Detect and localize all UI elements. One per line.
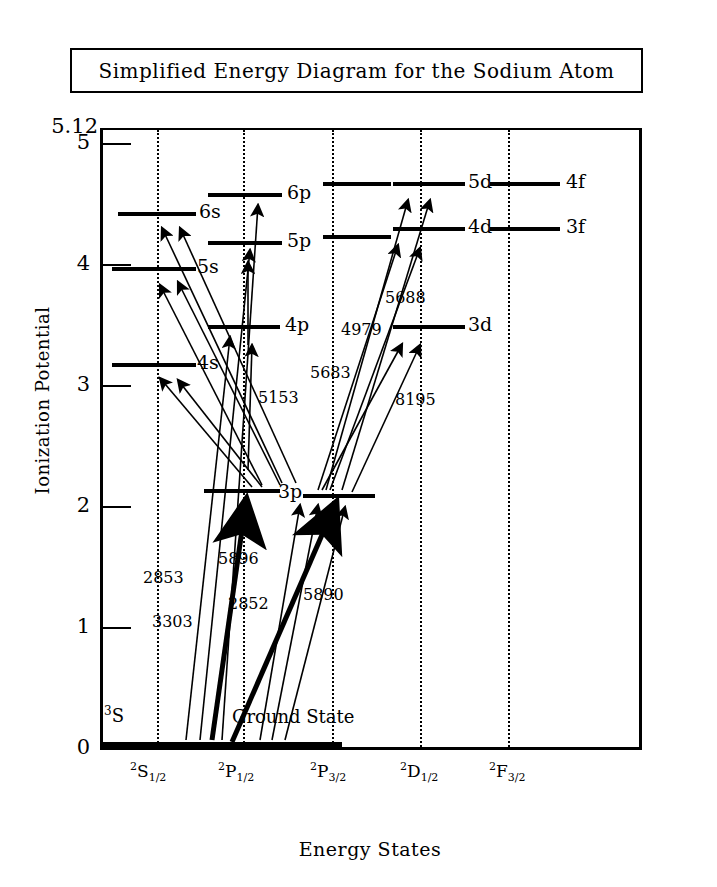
xtick-P12-subscript: 1/2 bbox=[236, 771, 254, 784]
wavelength-label-4979: 4979 bbox=[341, 320, 382, 339]
level-label-4f: 4f bbox=[566, 170, 585, 192]
ytick-label-5: 5 bbox=[20, 130, 90, 154]
xtick-P12-superscript: 2 bbox=[218, 760, 225, 773]
level-line-5s bbox=[112, 267, 196, 271]
ground-term-superscript: 3 bbox=[104, 704, 112, 718]
xtick-F-superscript: 2 bbox=[489, 760, 496, 773]
level-line-4f bbox=[490, 182, 560, 186]
wavelength-label-3303: 3303 bbox=[152, 612, 193, 631]
axis-left bbox=[100, 128, 103, 750]
level-label-4s: 4s bbox=[197, 351, 219, 373]
energy-level-diagram: 5.12 5 4 3 2 1 0 Ionization Potential 6s… bbox=[0, 0, 717, 887]
transition-3p-to-5d bbox=[342, 200, 430, 490]
level-label-3d: 3d bbox=[468, 313, 492, 335]
xtick-label-P32: 2P3/2 bbox=[310, 760, 346, 784]
transition-arrows bbox=[0, 0, 717, 887]
level-line-5p-p32 bbox=[323, 235, 391, 239]
transition-3p-to-4s-b bbox=[160, 378, 252, 487]
transition-8195 bbox=[352, 345, 420, 492]
transition-5896 bbox=[212, 502, 246, 740]
level-line-6p-p12 bbox=[208, 193, 282, 197]
xtick-S-subscript: 1/2 bbox=[149, 771, 167, 784]
level-line-6s bbox=[118, 212, 196, 216]
gridline-F bbox=[508, 130, 510, 747]
wavelength-label-2853: 2853 bbox=[143, 568, 184, 587]
ytick-3 bbox=[103, 385, 131, 387]
level-label-6s: 6s bbox=[199, 200, 221, 222]
level-label-3f: 3f bbox=[566, 215, 585, 237]
ground-state-note: Ground State bbox=[232, 706, 354, 727]
wavelength-label-5683: 5683 bbox=[310, 363, 351, 382]
ytick-2 bbox=[103, 506, 131, 508]
xtick-P32-subscript: 3/2 bbox=[328, 771, 346, 784]
level-label-6p: 6p bbox=[287, 181, 311, 203]
y-axis-label: Ionization Potential bbox=[32, 271, 53, 531]
ground-state-term-label: 3S bbox=[104, 704, 124, 726]
level-line-4p-p12 bbox=[208, 325, 280, 329]
xtick-F-subscript: 3/2 bbox=[508, 771, 526, 784]
ytick-label-2: 2 bbox=[20, 493, 90, 517]
x-axis-label: Energy States bbox=[100, 838, 640, 860]
wavelength-label-8195: 8195 bbox=[395, 390, 436, 409]
xtick-label-S: 2S1/2 bbox=[130, 760, 166, 784]
level-label-5p: 5p bbox=[287, 229, 311, 251]
level-label-5s: 5s bbox=[197, 255, 219, 277]
wavelength-label-5896: 5896 bbox=[218, 549, 259, 568]
level-line-5p-p12 bbox=[208, 241, 282, 245]
transition-2853 bbox=[186, 337, 230, 740]
gridline-S bbox=[157, 130, 159, 747]
xtick-label-D: 2D1/2 bbox=[400, 760, 438, 784]
xtick-D-letter: D bbox=[407, 761, 421, 781]
level-label-4d: 4d bbox=[468, 215, 492, 237]
level-line-3d bbox=[393, 325, 465, 329]
wavelength-label-2852: 2852 bbox=[228, 594, 269, 613]
gridline-D bbox=[420, 130, 422, 747]
axis-top bbox=[100, 128, 642, 130]
ytick-1 bbox=[103, 627, 131, 629]
ytick-label-4: 4 bbox=[20, 251, 90, 275]
level-line-ground bbox=[102, 742, 342, 748]
wavelength-label-5688: 5688 bbox=[385, 288, 426, 307]
xtick-S-letter: S bbox=[137, 761, 149, 781]
transition-2852 bbox=[260, 505, 300, 740]
level-line-3f bbox=[490, 227, 560, 231]
gridline-P32 bbox=[332, 130, 334, 747]
ytick-label-1: 1 bbox=[20, 614, 90, 638]
level-label-4p: 4p bbox=[285, 313, 309, 335]
gridline-P12 bbox=[243, 130, 245, 747]
transition-3p-to-5s bbox=[178, 282, 280, 485]
level-line-4d bbox=[393, 227, 465, 231]
xtick-label-F: 2F3/2 bbox=[489, 760, 526, 784]
xtick-D-superscript: 2 bbox=[400, 760, 407, 773]
ytick-5 bbox=[103, 143, 131, 145]
ytick-label-3: 3 bbox=[20, 372, 90, 396]
xtick-P32-letter: P bbox=[317, 761, 328, 781]
transition-ground-to-5p-b bbox=[272, 505, 318, 740]
level-line-5d bbox=[393, 182, 465, 186]
xtick-label-P12: 2P1/2 bbox=[218, 760, 254, 784]
transition-4s-to-4p bbox=[248, 345, 252, 470]
wavelength-label-5890: 5890 bbox=[303, 585, 344, 604]
transition-ground-to-6p bbox=[222, 205, 258, 740]
level-line-6p-p32 bbox=[323, 182, 391, 186]
level-line-3p-p12 bbox=[204, 489, 280, 493]
ground-term-letter: S bbox=[112, 705, 124, 726]
ytick-label-0: 0 bbox=[20, 735, 90, 759]
transition-5153 bbox=[178, 380, 262, 487]
transition-3p-to-5d-b bbox=[326, 200, 408, 490]
level-line-3p-p32 bbox=[303, 494, 375, 498]
level-line-4s bbox=[112, 363, 196, 367]
xtick-P12-letter: P bbox=[225, 761, 236, 781]
wavelength-label-5153: 5153 bbox=[258, 388, 299, 407]
level-label-5d: 5d bbox=[468, 170, 492, 192]
ytick-4 bbox=[103, 264, 131, 266]
xtick-F-letter: F bbox=[496, 761, 508, 781]
transition-3p-to-5s-b bbox=[160, 285, 262, 485]
xtick-P32-superscript: 2 bbox=[310, 760, 317, 773]
xtick-D-subscript: 1/2 bbox=[421, 771, 439, 784]
xtick-S-superscript: 2 bbox=[130, 760, 137, 773]
axis-right bbox=[639, 128, 642, 750]
level-label-3p: 3p bbox=[278, 480, 302, 502]
